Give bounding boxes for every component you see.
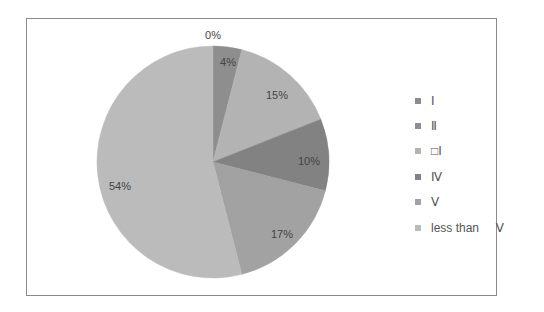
legend-label-I: Ⅰ	[431, 94, 435, 108]
legend-item-II: Ⅱ	[415, 117, 437, 135]
legend-swatch-V	[415, 199, 421, 205]
legend-item-IV: Ⅳ	[415, 168, 442, 186]
legend-item-III: □Ⅰ	[415, 142, 442, 160]
slice-label-II: 4%	[220, 56, 236, 68]
legend-swatch-I	[415, 98, 421, 104]
legend-swatch-IV	[415, 174, 421, 180]
slice-label-III: 15%	[266, 89, 288, 101]
slice-label-I: 0%	[205, 29, 221, 41]
legend-item-less-than-V: less than Ⅴ	[415, 219, 504, 237]
legend-label-V: Ⅴ	[431, 195, 439, 209]
pie-chart: 0% 4% 15% 10% 17% 54%	[0, 0, 544, 312]
legend-label-IV: Ⅳ	[431, 170, 442, 184]
legend-swatch-III	[415, 148, 421, 154]
slice-label-V: 17%	[271, 228, 293, 240]
legend-label-II: Ⅱ	[431, 119, 437, 133]
slice-label-less-than-V: 54%	[109, 180, 131, 192]
legend-item-V: Ⅴ	[415, 193, 439, 211]
legend-label-less-than-V: less than Ⅴ	[431, 221, 504, 235]
legend-label-III: □Ⅰ	[431, 144, 442, 158]
slice-label-IV: 10%	[298, 155, 320, 167]
legend-swatch-less-than-V	[415, 225, 421, 231]
legend-swatch-II	[415, 123, 421, 129]
pie-slices	[97, 46, 329, 278]
legend-item-I: Ⅰ	[415, 92, 435, 110]
